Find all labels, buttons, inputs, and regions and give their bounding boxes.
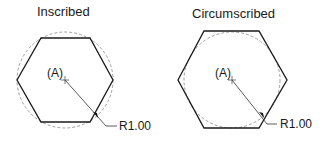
radius-label: R1.00 <box>119 119 151 133</box>
inscribed-figure: (A) R1.00 <box>17 32 151 133</box>
center-label: (A) <box>47 66 63 80</box>
circumscribed-figure: (A) R1.00 <box>178 31 312 131</box>
radius-leader-line <box>232 80 267 124</box>
circumscribed-hexagon <box>178 31 287 128</box>
radius-label: R1.00 <box>280 117 312 131</box>
center-label: (A) <box>215 66 231 80</box>
polygon-diagram: (A) R1.00 (A) R1.00 <box>0 0 331 143</box>
